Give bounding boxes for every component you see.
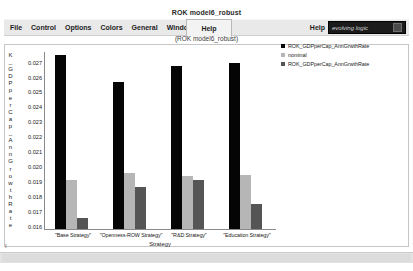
menu-item-control[interactable]: Control [31, 24, 56, 31]
bar-group [229, 52, 262, 229]
x-axis-title: Strategy [44, 241, 276, 247]
bar [182, 176, 193, 229]
y-axis-tick-label: 0.018 [28, 194, 42, 200]
y-axis-title-char: o [9, 173, 12, 180]
y-axis-title-char: p [9, 87, 12, 94]
y-axis-tick-label: 0.021 [28, 149, 42, 155]
bar [251, 204, 262, 229]
evolving-logic-button[interactable]: evolving logic [328, 21, 406, 34]
y-axis-tick-label: 0.020 [28, 164, 42, 170]
window-glyph-icon [393, 23, 402, 32]
menu-item-colors[interactable]: Colors [100, 24, 122, 31]
bars-container [45, 52, 276, 229]
bar [240, 175, 251, 229]
bar [55, 55, 66, 229]
bar [229, 63, 240, 229]
menu-item-file[interactable]: File [10, 24, 22, 31]
legend-item[interactable]: nominal [281, 51, 411, 59]
menu-bar: File Control Options Colors General Wind… [4, 19, 409, 36]
y-axis-title-char: n [9, 151, 12, 158]
menu-item-group: File Control Options Colors General Wind… [10, 20, 197, 35]
y-axis-tick-label: 0.025 [28, 89, 42, 95]
brand-label: evolving logic [332, 25, 368, 31]
y-axis-title-char: G [8, 66, 13, 73]
y-axis-title-char: _ [9, 130, 12, 137]
x-axis-tick-label: "Education Strategy" [223, 232, 270, 238]
y-axis-title: K_GDPperCap_AnnGrowthRate [5, 52, 16, 264]
document-subtitle: (ROK model6_robust) [0, 35, 413, 42]
y-axis-title-char: n [9, 144, 12, 151]
menu-item-general[interactable]: General [132, 24, 158, 31]
y-axis-tick-label: 0.017 [28, 209, 42, 215]
y-axis-title-char: r [10, 102, 12, 109]
x-axis-tick-label: "Base Strategy" [55, 232, 91, 238]
y-axis-title-char: P [8, 80, 12, 87]
y-axis-title-char: e [9, 95, 12, 102]
window-title: ROK model6_robust [0, 9, 413, 16]
y-axis-title-char: R [8, 201, 12, 208]
legend-label: ROK_GDPperCap_AnnGrwthRate [288, 61, 369, 67]
bar-group [113, 52, 146, 229]
y-axis-title-char: w [8, 180, 12, 187]
bar [77, 218, 88, 229]
y-axis-tick-label: 0.016 [28, 224, 42, 230]
y-axis-tick-label: 0.019 [28, 179, 42, 185]
chart-legend: ROK_GDPperCap_AnnGrwthRatenominalROK_GDP… [281, 42, 411, 69]
y-axis-tick-label: 0.023 [28, 119, 42, 125]
legend-label: nominal [288, 52, 307, 58]
bar [124, 173, 135, 229]
application-window: ROK model6_robust File Control Options C… [0, 0, 413, 271]
y-axis-title-char: D [8, 73, 12, 80]
x-axis-tick-label: "R&D Strategy" [171, 232, 206, 238]
y-axis-title-char: a [9, 208, 12, 215]
y-axis-title-char: A [8, 137, 12, 144]
legend-swatch-icon [281, 53, 285, 57]
y-axis-tick-label: 0.027 [28, 60, 42, 66]
bar [193, 180, 204, 229]
y-axis-title-char: h [9, 194, 12, 201]
y-axis-title-char: C [8, 109, 12, 116]
y-axis-title-char: r [10, 166, 12, 173]
y-axis-tick-labels: 0.0270.0260.0250.0240.0230.0220.0210.020… [16, 56, 42, 234]
plot-area [44, 52, 276, 230]
bar-group [55, 52, 88, 229]
horizontal-scrollbar[interactable] [0, 252, 413, 263]
corner-mark: I [5, 243, 7, 249]
legend-swatch-icon [281, 62, 285, 66]
y-axis-title-char: t [10, 215, 12, 222]
y-axis-tick-label: 0.022 [28, 134, 42, 140]
y-axis-title-char: t [10, 187, 12, 194]
menu-item-options[interactable]: Options [65, 24, 91, 31]
bar [113, 82, 124, 229]
legend-item[interactable]: ROK_GDPperCap_AnnGrwthRate [281, 60, 411, 68]
y-axis-title-char: a [9, 116, 12, 123]
y-axis-title-char: e [9, 222, 12, 229]
scrollbar-thumb[interactable] [2, 254, 411, 262]
bar [171, 66, 182, 229]
legend-label: ROK_GDPperCap_AnnGrwthRate [288, 43, 369, 49]
y-axis-tick-label: 0.026 [28, 75, 42, 81]
y-axis-title-char: p [9, 123, 12, 130]
y-axis-title-char: K [8, 52, 12, 59]
bar [135, 187, 146, 229]
x-axis-tick-label: "Openness-ROW Strategy" [100, 232, 163, 238]
legend-item[interactable]: ROK_GDPperCap_AnnGrwthRate [281, 42, 411, 50]
legend-swatch-icon [281, 44, 285, 48]
help-link[interactable]: Help [310, 20, 325, 35]
bar [66, 180, 77, 229]
bar-group [171, 52, 204, 229]
y-axis-title-char: _ [9, 59, 12, 66]
y-axis-title-char: G [8, 158, 13, 165]
y-axis-tick-label: 0.024 [28, 104, 42, 110]
